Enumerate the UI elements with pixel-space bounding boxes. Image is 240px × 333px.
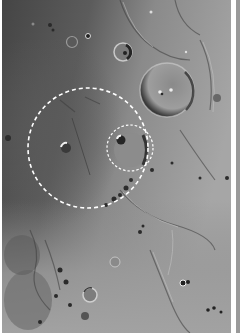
medium-crater: [114, 43, 132, 61]
large-crater: [140, 63, 194, 117]
moon-photo: [2, 0, 231, 333]
moon-surface-svg: [2, 0, 231, 333]
lower-left-basin: [4, 270, 52, 330]
target-crater: [114, 133, 148, 167]
right-edge-strip: [236, 0, 240, 333]
image-frame: [0, 0, 240, 333]
